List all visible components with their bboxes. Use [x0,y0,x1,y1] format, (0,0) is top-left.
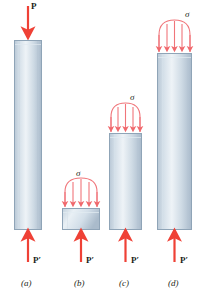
panel-b-caption: (b) [74,279,85,288]
panel-d [158,20,192,262]
panel-c-stress-label: σ [130,93,134,102]
panel-c-caption: (c) [119,279,129,288]
panel-a-top-load-label: P [31,2,37,11]
panel-a-caption: (a) [21,279,32,288]
panel-b-bottom-load-label: P′ [86,256,94,265]
panel-b [63,178,100,262]
panel-c-bottom-load-label: P′ [131,256,139,265]
panel-b-stress-arrows [65,179,97,204]
panel-c-stress-arrows [111,104,140,129]
panel-a [15,6,42,262]
panel-a-bottom-load-label: P′ [33,256,41,265]
panel-d-bottom-load-label: P′ [180,256,188,265]
panel-d-stress-arrows [159,21,190,49]
panel-c [110,103,142,262]
diagram-svg [0,0,201,297]
panel-b-stress-label: σ [76,169,80,178]
panel-b-bar [63,209,100,230]
panel-d-caption: (d) [168,279,179,288]
figure-canvas: P P′ P′ P′ P′ σ σ σ (a) (b) (c) (d) [0,0,201,297]
panel-d-stress-label: σ [185,10,189,19]
